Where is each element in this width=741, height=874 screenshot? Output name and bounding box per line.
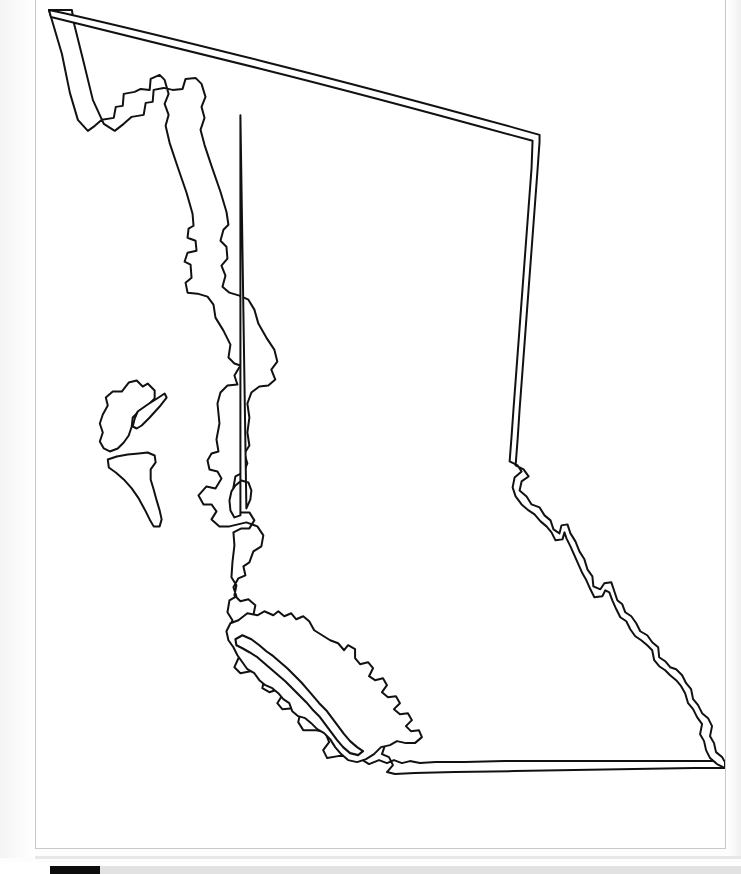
page-gutter-left bbox=[0, 0, 35, 858]
scrollbar-thumb[interactable] bbox=[50, 866, 100, 874]
map-island-moresby bbox=[108, 452, 162, 526]
horizontal-scrollbar[interactable] bbox=[0, 862, 741, 874]
scrollbar-seam bbox=[35, 856, 741, 859]
document-viewer[interactable] bbox=[0, 0, 741, 874]
map-island-vancouver bbox=[226, 611, 421, 762]
page-gutter-right bbox=[727, 0, 741, 858]
scrollbar-track[interactable] bbox=[50, 866, 741, 874]
document-page bbox=[35, 0, 726, 849]
british-columbia-outline-map bbox=[36, 0, 725, 848]
